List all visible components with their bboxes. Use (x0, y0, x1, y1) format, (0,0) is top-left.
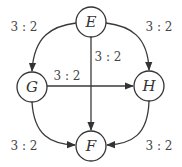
node-e-label: E (85, 13, 97, 31)
edge-e-to-g (32, 23, 76, 71)
node-f: F (76, 131, 106, 161)
edge-g-to-f (32, 102, 75, 145)
node-h-label: H (141, 77, 156, 95)
edge-label-g-f: 3 : 2 (11, 139, 38, 153)
node-g-label: G (26, 78, 38, 96)
edge-h-to-f (107, 101, 149, 145)
node-g: G (17, 72, 47, 102)
edge-label-e-f: 3 : 2 (95, 50, 122, 64)
node-h: H (134, 71, 164, 101)
node-f-label: F (85, 137, 97, 155)
edge-label-g-h: 3 : 2 (54, 69, 81, 83)
graph-diagram: E G H F 3 : 2 3 : 2 3 : 2 3 : 2 3 : 2 3 … (0, 0, 182, 167)
edge-label-h-f: 3 : 2 (146, 139, 173, 153)
edge-label-e-h: 3 : 2 (146, 20, 173, 34)
node-e: E (76, 7, 106, 37)
edge-label-e-g: 3 : 2 (11, 20, 38, 34)
